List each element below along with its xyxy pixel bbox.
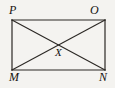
intersection-label-x: X	[55, 47, 62, 58]
diagonals	[12, 20, 105, 70]
vertex-label-n: N	[99, 71, 107, 83]
geometry-figure: P O M N X	[0, 0, 115, 88]
vertex-label-m: M	[9, 71, 19, 83]
vertex-label-o: O	[90, 4, 99, 16]
vertex-label-p: P	[9, 4, 16, 16]
